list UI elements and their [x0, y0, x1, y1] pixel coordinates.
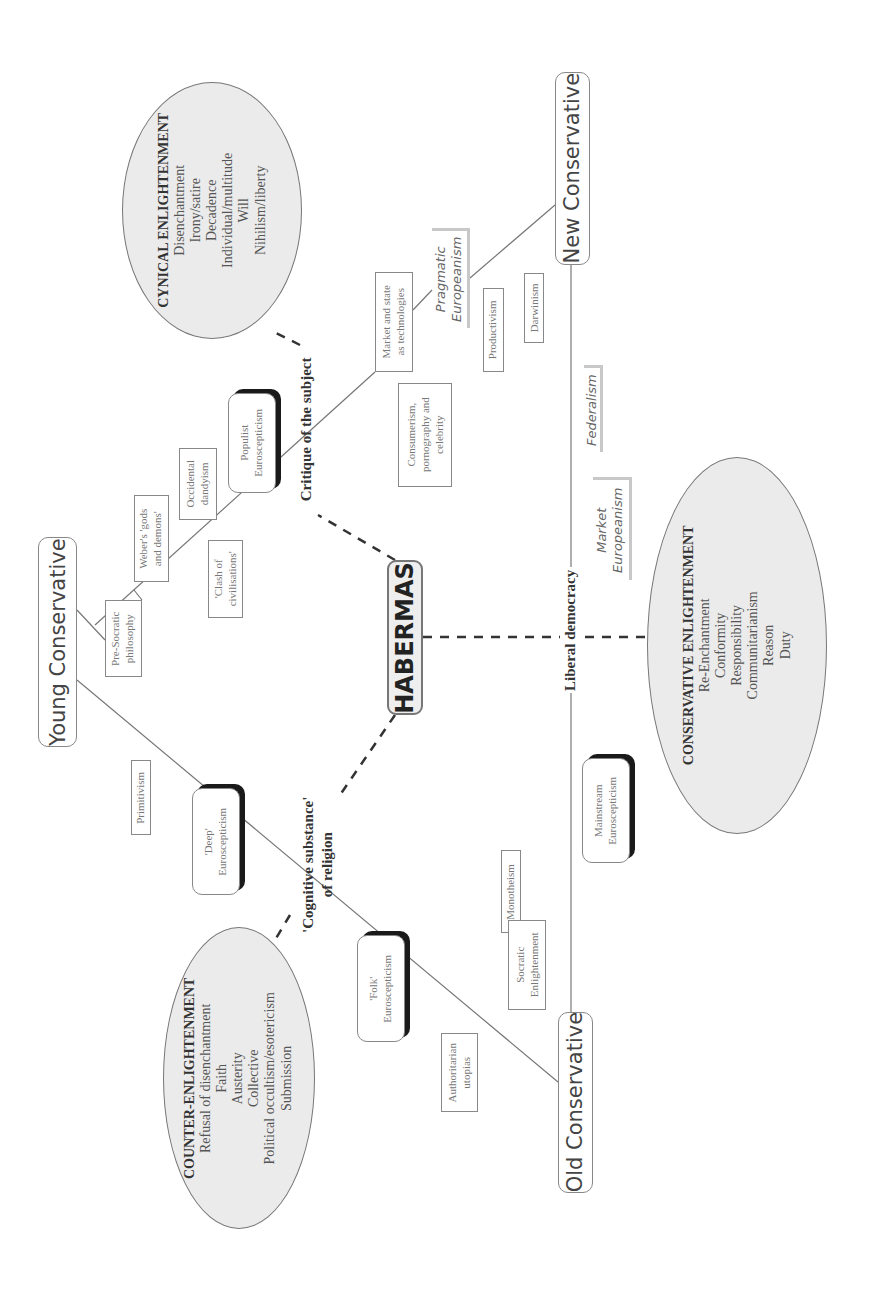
primitivism-box: Primitivism [131, 760, 151, 835]
mainstream-euroscepticism-box: MainstreamEuroscepticism [582, 758, 630, 863]
market-state-technologies-box: Market and stateas technologies [375, 272, 413, 372]
cognitive-substance-label: 'Cognitive substance' of religion [300, 787, 336, 943]
habermas-label: HABERMAS [390, 562, 420, 714]
pragmatic-europeanism-label: PragmaticEuropeanism [432, 228, 470, 328]
counter-item: Refusal of disenchantment [199, 977, 215, 1178]
consumerism-box: Consumerism,pornography andcelebrity [398, 383, 452, 487]
conservative-item: Re-Enchantment [697, 526, 713, 766]
conservative-item: Responsibility [729, 526, 745, 766]
productivism-box: Productivism [483, 288, 504, 372]
weber-box: Weber's 'godsand demons' [134, 495, 169, 582]
socratic-enlightenment-box: SocraticEnlightenment [508, 920, 546, 1010]
cynical-item: Individual/multitude [220, 113, 236, 308]
counter-enlightenment-title: COUNTER-ENLIGHTENMENT [183, 977, 199, 1178]
young-conservative-node: Young Conservative [38, 537, 77, 747]
cognitive-substance-line1: 'Cognitive substance' [299, 797, 318, 933]
counter-item: Political occultism/esotericism [263, 977, 279, 1178]
market-europeanism-label: MarketEuropeanism [593, 477, 632, 580]
habermas-concept-map: CYNICAL ENLIGHTENMENT Disenchantment Iro… [0, 0, 877, 1289]
authoritarian-utopias-box: Authoritarianutopias [441, 1033, 478, 1112]
critique-of-subject-label: Critique of the subject [295, 345, 319, 513]
cynical-item: Irony/satire [188, 113, 204, 308]
conservative-item: Communitarianism [745, 526, 761, 766]
new-conservative-label: New Conservative [559, 73, 585, 264]
old-conservative-node: Old Conservative [558, 1012, 593, 1193]
conservative-item: Conformity [713, 526, 729, 766]
counter-item: Austerity [231, 977, 247, 1178]
counter-item: Collective [247, 977, 263, 1178]
populist-euroscepticism-box: PopulistEuroscepticism [228, 393, 276, 493]
deep-euroscepticism-box: 'Deep'Euroscepticism [192, 788, 240, 895]
young-conservative-label: Young Conservative [44, 538, 70, 746]
cynical-item: Disenchantment [172, 113, 188, 308]
conservative-enlightenment-title: CONSERVATIVE ENLIGHTENMENT [681, 526, 697, 766]
clash-of-civilisations-box: 'Clash ofcivilisations' [208, 540, 243, 618]
liberal-democracy-label: Liberal democracy [560, 567, 582, 693]
cynical-item: Nihilism/liberty [252, 113, 268, 308]
counter-item: Submission [279, 977, 295, 1178]
old-conservative-label: Old Conservative [562, 1012, 588, 1192]
darwinism-box: Darwinism [524, 273, 544, 343]
pre-socratic-box: Pre-Socraticphilosophy [105, 600, 142, 677]
counter-item: Faith [215, 977, 231, 1178]
habermas-node: HABERMAS [387, 560, 423, 715]
cynical-enlightenment-title: CYNICAL ENLIGHTENMENT [156, 113, 172, 308]
counter-enlightenment-ellipse: COUNTER-ENLIGHTENMENT Refusal of disench… [163, 927, 315, 1229]
folk-euroscepticism-box: 'Folk'Euroscepticism [357, 935, 405, 1042]
cynical-item: Decadence [204, 113, 220, 308]
cynical-enlightenment-ellipse: CYNICAL ENLIGHTENMENT Disenchantment Iro… [122, 82, 302, 339]
conservative-item: Duty [777, 526, 793, 766]
conservative-item: Reason [761, 526, 777, 766]
occidental-dandyism-box: Occidentaldandyism [179, 448, 217, 520]
federalism-label: Federalism [584, 365, 603, 452]
cynical-item: Will [236, 113, 252, 308]
conservative-enlightenment-ellipse: CONSERVATIVE ENLIGHTENMENT Re-Enchantmen… [647, 457, 827, 834]
cognitive-substance-line2: of religion [318, 797, 337, 933]
new-conservative-node: New Conservative [555, 72, 590, 265]
